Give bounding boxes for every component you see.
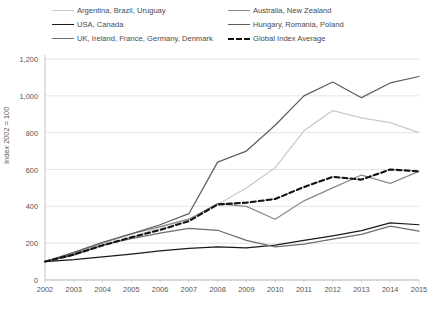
legend-item-australia-new-zealand[interactable]: Australia, New Zealand xyxy=(228,4,344,17)
legend-label: UK, Ireland, France, Germany, Denmark xyxy=(77,34,213,43)
x-tick-label: 2003 xyxy=(66,285,82,294)
legend-column-left: Argentina, Brazil, Uruguay USA, Canada U… xyxy=(52,4,213,46)
x-tick-label: 2005 xyxy=(123,285,139,294)
legend-label: Hungary, Romania, Poland xyxy=(253,20,344,29)
x-tick-label: 2006 xyxy=(152,285,168,294)
legend-item-hungary-romania-poland[interactable]: Hungary, Romania, Poland xyxy=(228,18,344,31)
series-line xyxy=(45,171,419,261)
legend-swatch-icon xyxy=(228,38,250,40)
legend-item-global-index-average[interactable]: Global Index Average xyxy=(228,32,344,45)
legend-label: Argentina, Brazil, Uruguay xyxy=(77,6,166,15)
x-tick-label: 2010 xyxy=(267,285,283,294)
legend-swatch-icon xyxy=(228,24,250,25)
plot-area: Index 2002 = 100 02004006008001,0001,200… xyxy=(0,46,426,313)
legend-column-right: Australia, New Zealand Hungary, Romania,… xyxy=(228,4,344,46)
x-tick-label: 2004 xyxy=(94,285,110,294)
legend-label: Australia, New Zealand xyxy=(253,6,332,15)
x-tick-label: 2014 xyxy=(382,285,398,294)
chart-legend: Argentina, Brazil, Uruguay USA, Canada U… xyxy=(0,0,426,46)
x-tick-label: 2013 xyxy=(353,285,369,294)
legend-swatch-icon xyxy=(52,38,74,39)
legend-label: USA, Canada xyxy=(77,20,123,29)
x-tick-label: 2008 xyxy=(209,285,225,294)
legend-swatch-icon xyxy=(52,10,74,11)
legend-item-usa-canada[interactable]: USA, Canada xyxy=(52,18,213,31)
legend-label: Global Index Average xyxy=(253,34,325,43)
x-tick-label: 2011 xyxy=(296,285,312,294)
series-line xyxy=(45,111,419,262)
x-tick-label: 2015 xyxy=(411,285,427,294)
legend-item-argentina-brazil-uruguay[interactable]: Argentina, Brazil, Uruguay xyxy=(52,4,213,17)
x-axis-ticks: 2002200320042005200620072008200920102011… xyxy=(0,285,426,305)
x-tick-label: 2012 xyxy=(324,285,340,294)
legend-item-uk-ireland-france-germany-denmark[interactable]: UK, Ireland, France, Germany, Denmark xyxy=(52,32,213,45)
x-tick-label: 2009 xyxy=(238,285,254,294)
legend-swatch-icon xyxy=(228,10,250,11)
plot-canvas xyxy=(0,46,426,313)
legend-swatch-icon xyxy=(52,24,74,25)
x-tick-label: 2002 xyxy=(37,285,53,294)
x-tick-label: 2007 xyxy=(181,285,197,294)
